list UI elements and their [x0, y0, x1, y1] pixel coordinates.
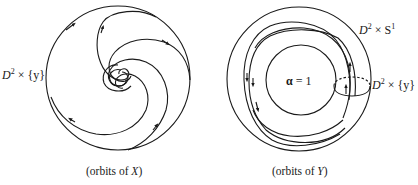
- meridian-disk-back: [334, 77, 370, 86]
- label-part: × S: [372, 23, 391, 37]
- label-part: D: [359, 23, 368, 37]
- right-caption: (orbits of Y): [272, 166, 328, 178]
- meridian-disk-label: D2 × {y}: [372, 79, 415, 91]
- label-part: = 1: [293, 74, 312, 88]
- spiral-orbit-3: [108, 59, 167, 150]
- caption-part: ): [138, 165, 142, 177]
- caption-part: (orbits of: [86, 165, 131, 177]
- label-sup: 1: [391, 22, 395, 31]
- meridian-disk-front: [334, 86, 370, 96]
- winding-orbit-4: [253, 110, 343, 136]
- orbit-arrow-icon: [256, 102, 258, 110]
- boundary-circle: [46, 6, 190, 150]
- left-caption: (orbits of X): [86, 166, 142, 178]
- spiral-arrow-icon: [70, 119, 75, 122]
- label-part: D: [372, 78, 381, 92]
- caption-part: ): [324, 165, 328, 177]
- caption-part: (orbits of: [272, 165, 317, 177]
- diagram-canvas: [0, 0, 418, 185]
- inner-alpha-label: α = 1: [286, 75, 311, 87]
- spiral-arrow-icon: [101, 27, 103, 33]
- left-panel-orbits-x: [46, 6, 190, 150]
- solid-torus-label: D2 × S1: [359, 24, 395, 36]
- label-part: D: [2, 68, 11, 82]
- label-part: × {y}: [15, 68, 45, 82]
- spiral-orbit-4: [51, 74, 148, 135]
- left-disk-label: D2 × {y}: [2, 69, 45, 81]
- alpha-symbol: α: [286, 74, 293, 88]
- label-part: × {y}: [385, 78, 415, 92]
